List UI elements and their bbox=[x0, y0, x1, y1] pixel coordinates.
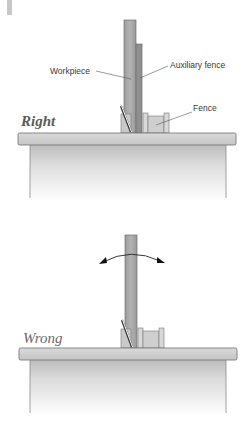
panel-wrong: Wrong bbox=[19, 235, 237, 416]
saw-table-top bbox=[19, 348, 237, 360]
saw-table-body bbox=[30, 145, 226, 201]
auxiliary-fence bbox=[136, 44, 142, 133]
page-marker bbox=[7, 0, 12, 15]
fence bbox=[138, 328, 164, 348]
panel-right: Workpiece Auxiliary fence Fence Right bbox=[18, 20, 236, 201]
saw-table-top bbox=[18, 133, 236, 145]
label-auxiliary-fence: Auxiliary fence bbox=[170, 60, 226, 70]
label-fence: Fence bbox=[193, 103, 217, 113]
saw-table-body bbox=[30, 360, 226, 416]
fence bbox=[143, 113, 169, 133]
panel-title-right: Right bbox=[20, 113, 56, 129]
label-workpiece: Workpiece bbox=[50, 66, 90, 76]
table-saw-fence-diagram: Workpiece Auxiliary fence Fence Right bbox=[0, 0, 249, 430]
panel-title-wrong: Wrong bbox=[23, 330, 63, 346]
